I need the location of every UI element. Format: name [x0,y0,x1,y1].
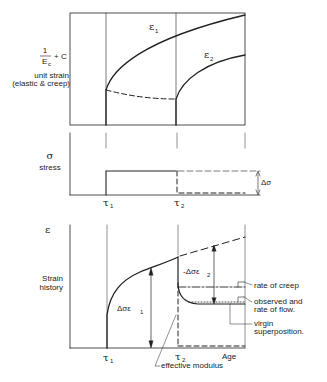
delta-sigma-label: Δσ [261,178,271,187]
tau2-mid-sub: 2 [181,203,185,209]
virgin-annotation-line2: superposition. [254,327,304,336]
tau1-mid-sub: 1 [110,203,114,209]
arrowhead-up-1 [149,268,153,275]
strain-history-curve [107,257,178,348]
epsilon2-curve [176,55,245,125]
delta-sigma-eps1-label: Δσε [117,304,131,313]
effective-modulus-leader [155,315,176,366]
observed-annotation-line2: rate of flow. [254,305,295,314]
creep-superposition-diagram: 1 E c + C unit strain (elastic & creep) … [0,0,327,382]
epsilon2-sub: 2 [210,56,214,62]
top-y-fraction-numerator: 1 [43,46,48,55]
arrowhead-down-2 [212,298,216,304]
arrowhead-down-1 [149,341,153,348]
rate-of-creep-marker [238,282,244,287]
rate-of-flow-marker [238,297,244,302]
top-y-fraction-denominator: E [42,57,47,66]
virgin-superposition-leader [230,304,252,324]
stress-label: stress [39,163,60,172]
top-y-plus-c: + C [54,52,67,61]
middle-panel [70,133,260,195]
stress-symbol: σ [47,150,54,161]
stress-reduction-dashed [177,171,245,193]
stress-step [106,171,176,195]
strain-history-label-line2: history [39,283,63,292]
delta-sigma-eps2-label: -Δσε [183,267,200,276]
top-y-label-line2: (elastic & creep) [12,79,70,88]
delta-sigma-eps2-sub: 2 [207,272,211,278]
tau2-mid-label: τ [174,197,180,208]
strain-symbol: ε [45,224,50,235]
bottom-panel [70,225,252,366]
delta-sigma-eps1-sub: 1 [140,309,144,315]
epsilon1-label: ε [149,21,154,32]
epsilon1-sub: 1 [155,28,159,34]
recovery-dashed-curve [106,90,176,99]
tau1-bottom-label: τ [103,352,109,363]
effective-modulus-annotation: effective modulus [161,361,223,370]
observed-recovery-curve [178,257,245,304]
tau1-bottom-sub: 1 [110,358,114,364]
age-axis-label: Age [222,352,237,361]
strain-history-label-line1: Strain [42,274,63,283]
virgin-strain-dashed [180,237,245,256]
epsilon2-label: ε [204,49,209,60]
rate-of-creep-annotation: rate of creep [254,281,299,290]
top-y-fraction-denominator-sub: c [48,61,51,67]
tau1-mid-label: τ [103,197,109,208]
